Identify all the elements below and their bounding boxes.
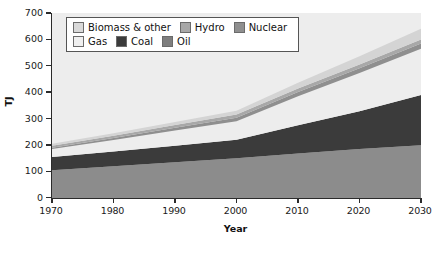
- chart-container: 700 600 500 400 300 200 100 0 TJ Biomass…: [0, 0, 437, 267]
- x-tick-mark: [420, 198, 422, 203]
- legend-swatch-gas-icon: [73, 36, 84, 47]
- y-tick-600: 600: [0, 33, 51, 45]
- x-tick-mark: [174, 198, 176, 203]
- x-tick-label: 2010: [267, 205, 327, 216]
- legend-swatch-biomass-icon: [73, 22, 84, 33]
- x-tick-mark: [359, 198, 361, 203]
- y-tick-500: 500: [0, 60, 51, 72]
- legend-swatch-nuclear-icon: [234, 22, 245, 33]
- legend-item-biomass[interactable]: Biomass & other: [73, 22, 171, 33]
- y-tick-label: 100: [25, 165, 43, 177]
- x-tick-mark: [113, 198, 115, 203]
- x-tick-mark: [51, 198, 53, 203]
- legend-row-bottom: Gas Coal Oil: [73, 36, 291, 47]
- legend-item-hydro[interactable]: Hydro: [180, 22, 225, 33]
- y-tick-label: 700: [25, 7, 43, 19]
- legend-swatch-oil-icon: [162, 36, 173, 47]
- y-tick-label: 500: [25, 60, 43, 72]
- y-axis-title: TJ: [3, 82, 14, 122]
- y-tick-label: 600: [25, 33, 43, 45]
- x-tick-label: 1980: [83, 205, 143, 216]
- x-tick-label: 2000: [206, 205, 266, 216]
- y-tick-700: 700: [0, 7, 51, 19]
- x-tick-mark: [236, 198, 238, 203]
- x-tick-label: 1970: [21, 205, 81, 216]
- x-tick-label: 1990: [144, 205, 204, 216]
- y-tick-100: 100: [0, 165, 51, 177]
- legend-label-gas: Gas: [88, 36, 107, 47]
- legend-label-biomass: Biomass & other: [88, 22, 171, 33]
- y-tick-label: 400: [25, 86, 43, 98]
- legend-label-oil: Oil: [177, 36, 190, 47]
- legend-label-coal: Coal: [131, 36, 153, 47]
- x-tick-label: 2020: [329, 205, 389, 216]
- legend-swatch-coal-icon: [116, 36, 127, 47]
- legend-item-coal[interactable]: Coal: [116, 36, 153, 47]
- x-tick-mark: [297, 198, 299, 203]
- y-tick-200: 200: [0, 139, 51, 151]
- y-tick-label: 300: [25, 113, 43, 125]
- legend-row-top: Biomass & other Hydro Nuclear: [73, 22, 291, 33]
- legend-item-nuclear[interactable]: Nuclear: [234, 22, 288, 33]
- x-tick-label: 2030: [390, 205, 437, 216]
- chart-legend: Biomass & other Hydro Nuclear Gas Coal: [66, 17, 299, 52]
- legend-item-gas[interactable]: Gas: [73, 36, 107, 47]
- legend-label-nuclear: Nuclear: [249, 22, 288, 33]
- legend-item-oil[interactable]: Oil: [162, 36, 190, 47]
- y-tick-label: 200: [25, 139, 43, 151]
- legend-label-hydro: Hydro: [195, 22, 225, 33]
- legend-swatch-hydro-icon: [180, 22, 191, 33]
- x-axis-title: Year: [51, 223, 420, 234]
